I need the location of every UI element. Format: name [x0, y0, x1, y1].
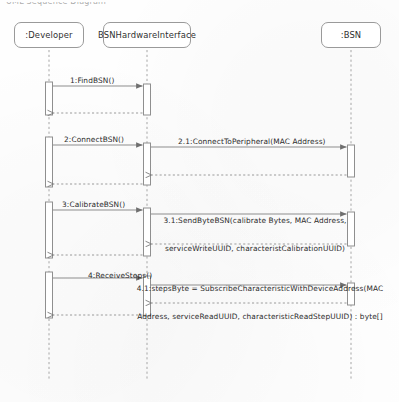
participant-developer-label: :Developer	[25, 30, 72, 40]
participant-developer[interactable]: :Developer	[14, 22, 84, 48]
label-connect-bsn: 2:ConnectBSN()	[64, 135, 124, 144]
participant-interface[interactable]: BSNHardwareInterface	[103, 22, 191, 48]
activation-developer-4	[46, 272, 53, 318]
activation-developer-1	[46, 82, 53, 115]
participant-bsn[interactable]: :BSN	[321, 22, 381, 48]
activation-developer-3	[46, 202, 53, 258]
label-subscribe-characteristic: 4.1:stepsByte = SubscribeCharacteristicW…	[124, 265, 396, 340]
activation-interface-1	[144, 84, 151, 115]
label-connect-to-peripheral: 2.1:ConnectToPeripheral(MAC Address)	[178, 137, 326, 146]
activation-interface-3	[144, 208, 151, 256]
label-send-byte-bsn-line1: 3.1:SendByteBSN(calibrate Bytes, MAC Add…	[156, 216, 354, 225]
label-calibrate-bsn: 3:CalibrateBSN()	[62, 200, 125, 209]
participant-bsn-label: :BSN	[341, 30, 362, 40]
participant-interface-label: BSNHardwareInterface	[98, 30, 196, 40]
sequence-diagram-canvas: UML Sequence Diagram	[0, 0, 399, 402]
label-send-byte-bsn-line2: serviceWriteUUID, characteristCalibratio…	[156, 244, 354, 253]
label-send-byte-bsn: 3.1:SendByteBSN(calibrate Bytes, MAC Add…	[156, 197, 354, 272]
activation-developer-2	[46, 137, 53, 187]
activation-bsn-1	[348, 145, 355, 177]
label-find-bsn: 1:FindBSN()	[70, 76, 114, 85]
label-subscribe-characteristic-line2: Address, serviceReadUUID, characteristic…	[124, 312, 396, 321]
label-subscribe-characteristic-line1: 4.1:stepsByte = SubscribeCharacteristicW…	[124, 284, 396, 293]
activation-interface-2	[144, 143, 151, 185]
